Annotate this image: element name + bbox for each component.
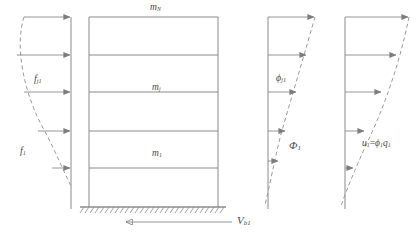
force-panel-group [17,17,71,209]
story-mode-label: ϕj1 [276,73,286,83]
mass-label-story-1: m1 [152,149,162,159]
figure-canvas [0,0,418,235]
mass-label-roof: mN [150,3,161,13]
frame-panel-group [80,17,232,222]
base-shear-label: Vb1 [237,215,251,227]
mode-shape-panel-group [265,17,315,209]
displacement-curve [341,17,409,206]
structural-dynamics-figure: fj1 f1 mN mj m1 Vb1 ϕj1 Φ1 u1=ϕ1q1 [0,0,418,235]
total-force-label: f1 [20,146,26,156]
displacement-panel-group [341,17,409,209]
force-envelope-curve [20,17,71,186]
ground-hatching [80,207,224,213]
mode-shape-curve [265,17,315,205]
displacement-equation-label: u1=ϕ1q1 [362,139,391,149]
mass-label-story-j: mj [152,83,161,93]
mode-vector-label: Φ1 [289,140,301,152]
story-force-label: fj1 [34,74,42,84]
